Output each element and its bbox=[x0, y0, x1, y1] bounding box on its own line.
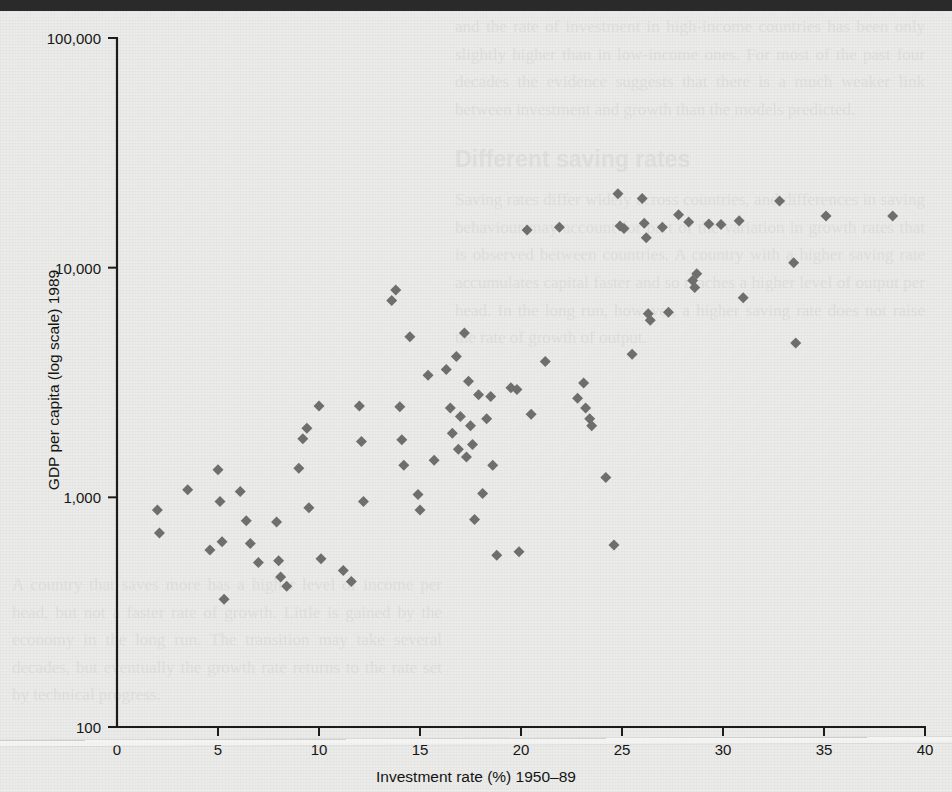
data-point bbox=[281, 581, 292, 592]
data-point bbox=[540, 356, 551, 367]
x-tick-label: 40 bbox=[917, 741, 934, 758]
data-point bbox=[346, 576, 357, 587]
data-point bbox=[481, 413, 492, 424]
data-point bbox=[612, 188, 623, 199]
data-point bbox=[429, 455, 440, 466]
x-tick-label: 25 bbox=[614, 741, 631, 758]
data-point bbox=[396, 434, 407, 445]
data-point bbox=[447, 428, 458, 439]
data-point bbox=[554, 222, 565, 233]
x-tick-label: 0 bbox=[113, 741, 121, 758]
x-axis-title: Investment rate (%) 1950–89 bbox=[0, 768, 952, 786]
data-point bbox=[639, 218, 650, 229]
data-point bbox=[394, 401, 405, 412]
data-point bbox=[441, 364, 452, 375]
data-point bbox=[358, 496, 369, 507]
data-point bbox=[338, 565, 349, 576]
data-point bbox=[182, 484, 193, 495]
data-point bbox=[469, 514, 480, 525]
data-point bbox=[445, 402, 456, 413]
data-point bbox=[572, 393, 583, 404]
plot-area bbox=[0, 11, 952, 792]
data-point bbox=[253, 557, 264, 568]
data-point bbox=[354, 400, 365, 411]
x-tick-label: 15 bbox=[412, 741, 429, 758]
data-point bbox=[887, 210, 898, 221]
y-axis-title: GDP per capita (log scale) 1989 bbox=[45, 230, 63, 530]
data-point bbox=[301, 423, 312, 434]
data-point bbox=[463, 376, 474, 387]
data-point bbox=[215, 496, 226, 507]
data-point bbox=[790, 337, 801, 348]
data-point bbox=[738, 292, 749, 303]
data-point bbox=[627, 349, 638, 360]
data-point bbox=[821, 210, 832, 221]
data-point bbox=[526, 409, 537, 420]
data-point bbox=[398, 460, 409, 471]
x-tick-label: 20 bbox=[513, 741, 530, 758]
data-point bbox=[415, 505, 426, 516]
scatter-chart: 1001,00010,000100,000 0510152025303540 G… bbox=[0, 11, 952, 792]
data-point bbox=[467, 439, 478, 450]
data-point bbox=[297, 433, 308, 444]
data-point bbox=[608, 540, 619, 551]
y-tick-label: 100,000 bbox=[0, 30, 101, 47]
data-point bbox=[275, 571, 286, 582]
data-point bbox=[271, 517, 282, 528]
x-tick-label: 5 bbox=[214, 741, 222, 758]
data-point bbox=[673, 209, 684, 220]
data-point bbox=[522, 224, 533, 235]
x-tick-label: 30 bbox=[715, 741, 732, 758]
data-point bbox=[235, 486, 246, 497]
data-point bbox=[316, 553, 327, 564]
data-point bbox=[663, 307, 674, 318]
data-point bbox=[241, 515, 252, 526]
data-point bbox=[485, 391, 496, 402]
data-point bbox=[600, 472, 611, 483]
data-point bbox=[390, 284, 401, 295]
data-point bbox=[473, 389, 484, 400]
data-point bbox=[487, 460, 498, 471]
data-point bbox=[154, 527, 165, 538]
data-point bbox=[314, 400, 325, 411]
x-tick-label: 35 bbox=[816, 741, 833, 758]
data-point bbox=[423, 370, 434, 381]
x-tick-label: 10 bbox=[311, 741, 328, 758]
data-point bbox=[356, 436, 367, 447]
data-point bbox=[477, 488, 488, 499]
data-point bbox=[451, 351, 462, 362]
data-point bbox=[774, 196, 785, 207]
data-point bbox=[152, 505, 163, 516]
data-point bbox=[580, 402, 591, 413]
scanned-book-page: and the rate of investment in high-incom… bbox=[0, 0, 952, 792]
data-point bbox=[245, 538, 256, 549]
data-point bbox=[453, 444, 464, 455]
data-point bbox=[404, 331, 415, 342]
data-point bbox=[683, 217, 694, 228]
data-point bbox=[465, 420, 476, 431]
data-point bbox=[715, 219, 726, 230]
data-point bbox=[273, 555, 284, 566]
data-point bbox=[217, 536, 228, 547]
data-point bbox=[734, 215, 745, 226]
data-point bbox=[455, 411, 466, 422]
data-point bbox=[491, 550, 502, 561]
data-point bbox=[293, 463, 304, 474]
data-point bbox=[412, 489, 423, 500]
data-point bbox=[204, 544, 215, 555]
scan-top-band bbox=[0, 0, 952, 11]
data-point bbox=[219, 594, 230, 605]
data-point bbox=[386, 295, 397, 306]
data-point bbox=[703, 218, 714, 229]
y-tick-label: 100 bbox=[0, 719, 101, 736]
data-point bbox=[459, 327, 470, 338]
data-point bbox=[578, 377, 589, 388]
data-point bbox=[303, 502, 314, 513]
data-point bbox=[513, 546, 524, 557]
data-point bbox=[657, 222, 668, 233]
data-point bbox=[637, 193, 648, 204]
data-point bbox=[461, 451, 472, 462]
data-point-markers bbox=[152, 188, 898, 605]
data-point bbox=[641, 232, 652, 243]
data-point bbox=[788, 257, 799, 268]
